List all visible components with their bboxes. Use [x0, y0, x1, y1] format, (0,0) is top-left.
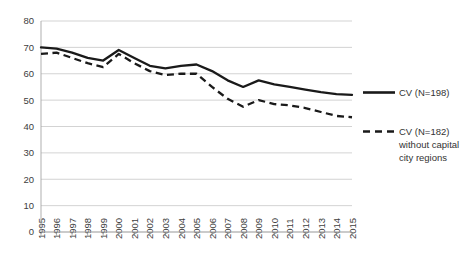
legend-entry-0-label: CV (N=198) [399, 87, 449, 98]
legend-entry-1-label-line3: city regions [399, 152, 447, 163]
x-axis-tick-label: 2004 [176, 218, 187, 239]
chart-container: 80706050403020100 1995199619971998199920… [0, 0, 475, 277]
x-axis-tick-label: 2002 [144, 218, 155, 239]
y-axis-tick-label: 70 [23, 42, 34, 53]
y-axis-tick-label: 40 [23, 121, 34, 132]
x-axis-tick-label: 1997 [67, 218, 78, 239]
x-axis-tick-label: 2014 [331, 218, 342, 239]
x-axis-tick-label: 2015 [347, 218, 358, 239]
y-axis-tick-label: 80 [23, 15, 34, 26]
x-axis-tick-label: 2006 [207, 218, 218, 239]
y-axis-tick-label: 30 [23, 147, 34, 158]
series-line-cv-198 [41, 47, 352, 94]
y-axis-tick-label: 60 [23, 68, 34, 79]
x-axis-tick-label: 2011 [284, 219, 295, 239]
x-axis-tick-label: 2008 [238, 218, 249, 239]
series-line-cv-182 [41, 53, 352, 118]
x-axis-tick-label: 2000 [113, 218, 124, 239]
legend: CV (N=198) CV (N=182) without capital ci… [363, 87, 459, 163]
x-axis-tick-label: 1998 [82, 218, 93, 239]
gridlines-group [41, 21, 352, 232]
y-axis-tick-label: 20 [23, 174, 34, 185]
y-axis-tick-label: 50 [23, 95, 34, 106]
x-axis-tick-label: 2010 [269, 218, 280, 239]
y-axis-tick-label: 0 [29, 226, 34, 237]
x-axis-tick-label: 1996 [51, 218, 62, 239]
x-axis-tick-label: 2005 [191, 218, 202, 239]
y-axis-tick-labels: 80706050403020100 [23, 15, 34, 237]
x-axis-tick-labels: 1995199619971998199920002001200220032004… [36, 218, 358, 239]
x-axis-tick-label: 2009 [253, 218, 264, 239]
line-chart: 80706050403020100 1995199619971998199920… [0, 0, 475, 277]
legend-entry-1-label-line1: CV (N=182) [399, 126, 449, 137]
x-axis-tick-label: 1999 [98, 218, 109, 239]
x-axis-tick-label: 2001 [129, 218, 140, 239]
x-axis-tick-label: 2013 [316, 218, 327, 239]
y-axis-tick-label: 10 [23, 200, 34, 211]
x-axis-tick-label: 2003 [160, 218, 171, 239]
x-axis-tick-label: 2012 [300, 218, 311, 239]
legend-entry-1-label-line2: without capital [398, 139, 459, 150]
x-axis-tick-label: 2007 [222, 218, 233, 239]
